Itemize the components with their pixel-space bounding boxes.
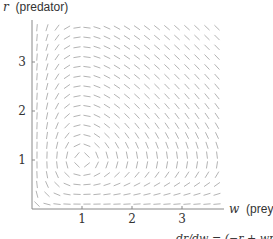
slope-segment — [104, 123, 110, 127]
slope-segment — [186, 161, 187, 168]
slope-segment — [144, 74, 149, 79]
slope-segment — [56, 171, 59, 178]
slope-segment — [175, 123, 179, 129]
slope-segment — [174, 25, 179, 30]
slope-segment — [114, 94, 120, 98]
slope-segment — [165, 94, 170, 99]
slope-segment — [93, 184, 100, 186]
slope-segment — [73, 27, 80, 28]
slope-segment — [73, 66, 80, 67]
slope-segment — [204, 193, 211, 195]
slope-segment — [64, 123, 69, 128]
slope-segment — [195, 84, 200, 89]
slope-segment — [64, 94, 70, 98]
slope-segment — [94, 46, 101, 48]
slope-segment — [163, 204, 170, 205]
slope-segment — [134, 183, 140, 186]
slope-segment — [46, 54, 48, 61]
slope-segment — [185, 103, 189, 109]
slope-segment — [155, 103, 160, 108]
slope-segment — [64, 45, 70, 49]
slope-segment — [124, 55, 130, 59]
slope-segment — [144, 183, 150, 186]
slope-segment — [104, 85, 110, 88]
slope-segment — [215, 74, 220, 79]
slope-segment — [83, 47, 90, 48]
slope-segment — [195, 172, 199, 178]
slope-segment — [124, 104, 129, 109]
slope-segment — [84, 153, 89, 158]
slope-segment — [73, 184, 80, 185]
slope-segment — [55, 93, 59, 99]
slope-segment — [46, 63, 48, 70]
slope-segment — [124, 94, 130, 99]
slope-segment — [64, 55, 70, 59]
slope-segment — [145, 132, 149, 138]
slope-segment — [205, 55, 210, 60]
slope-segment — [196, 161, 197, 168]
slope-segment — [204, 35, 209, 40]
slope-segment — [146, 142, 149, 149]
slope-segment — [136, 161, 138, 168]
slope-segment — [74, 162, 79, 167]
slope-segment — [73, 47, 80, 48]
slope-segment — [144, 193, 151, 195]
slope-segment — [46, 83, 48, 90]
slope-segment — [104, 46, 111, 49]
slope-segment — [37, 24, 38, 31]
slope-segment — [94, 85, 101, 88]
slope-segment — [124, 75, 130, 79]
slope-segment — [115, 142, 119, 148]
slope-segment — [83, 37, 90, 38]
slope-segment — [55, 74, 59, 80]
slope-segment — [37, 54, 38, 61]
slope-segment — [164, 74, 169, 79]
slope-segment — [174, 35, 179, 40]
slope-segment — [94, 124, 100, 127]
slope-segment — [116, 161, 118, 168]
slope-segment — [34, 202, 39, 207]
slope-segment — [84, 163, 90, 168]
slope-segment — [55, 54, 59, 60]
slope-segment — [203, 204, 210, 205]
slope-segment — [83, 66, 90, 67]
slope-segment — [83, 125, 90, 127]
slope-segment — [74, 134, 81, 136]
slope-segment — [57, 161, 58, 168]
slope-segment — [206, 161, 207, 168]
slope-segment — [176, 142, 178, 149]
slope-segment — [154, 74, 159, 79]
slope-segment — [114, 114, 119, 119]
slope-segment — [126, 152, 127, 159]
slope-segment — [55, 113, 58, 119]
slope-segment — [164, 193, 171, 195]
slope-segment — [174, 193, 181, 195]
slope-segment — [154, 45, 160, 50]
slope-segment — [125, 142, 128, 148]
slope-field-diagram: r (predator) 1 2 3 1 2 3 w (prey) dr/dw … — [0, 0, 273, 239]
slope-segment — [165, 113, 169, 119]
slope-segment — [195, 74, 200, 79]
slope-segment — [206, 142, 208, 149]
slope-segment — [64, 84, 70, 88]
slope-segment — [84, 135, 91, 137]
slope-segment — [104, 104, 110, 108]
slope-segment — [105, 142, 109, 148]
slope-segment — [164, 84, 169, 89]
slope-segment — [63, 194, 70, 195]
slope-segment — [73, 105, 80, 106]
slope-segment — [83, 96, 90, 97]
slope-segment — [114, 123, 119, 128]
slope-segment — [73, 76, 80, 77]
slope-segment — [44, 203, 51, 205]
slope-segment — [214, 45, 219, 50]
slope-segment — [144, 45, 150, 49]
slope-segment — [156, 161, 157, 168]
slope-segment — [185, 172, 189, 178]
slope-segment — [185, 123, 189, 129]
slope-segment — [205, 113, 209, 119]
slope-segment — [83, 57, 90, 58]
slope-segment — [216, 161, 217, 168]
slope-segment — [94, 143, 99, 148]
slope-segment — [95, 162, 98, 168]
